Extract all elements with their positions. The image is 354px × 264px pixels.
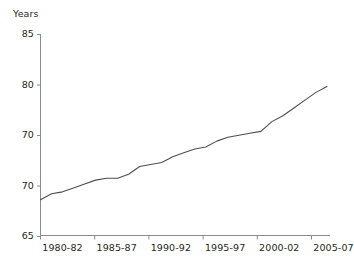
data-series-line bbox=[41, 87, 328, 200]
y-axis-tick-label: 70 bbox=[8, 129, 34, 140]
y-axis-tick-label: 65 bbox=[8, 230, 34, 241]
y-axis-ticks bbox=[37, 35, 41, 237]
x-axis-tick-label: 2000-02 bbox=[259, 242, 299, 253]
axis-lines bbox=[41, 34, 331, 236]
y-axis-tick-label: 85 bbox=[8, 28, 34, 39]
y-axis-tick-label: 70 bbox=[8, 180, 34, 191]
x-axis-tick-label: 1990-92 bbox=[151, 242, 191, 253]
x-axis-tick-label: 1995-97 bbox=[205, 242, 245, 253]
x-axis-tick-label: 2005-07 bbox=[313, 242, 353, 253]
y-axis-tick-label: 80 bbox=[8, 79, 34, 90]
x-axis-tick-label: 1980-82 bbox=[42, 242, 82, 253]
x-axis-tick-label: 1985-87 bbox=[96, 242, 136, 253]
x-axis-ticks bbox=[41, 236, 312, 240]
